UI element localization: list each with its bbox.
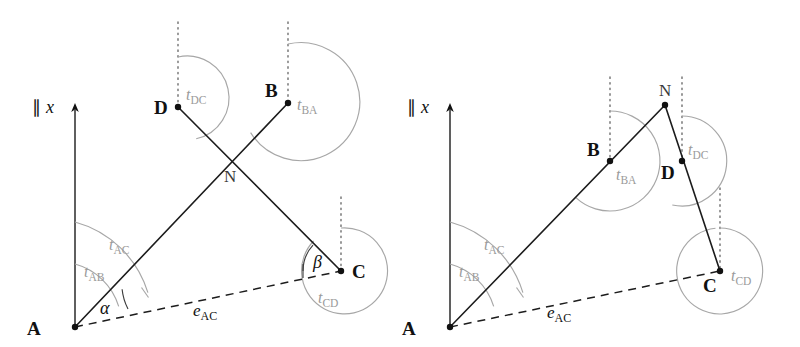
- left-panel: ∥x A B C D N tDC tBA tCD tAB tAC α β eAC: [27, 22, 388, 339]
- left-label-beta: β: [312, 252, 322, 272]
- right-point-N: [662, 102, 668, 108]
- left-label-eAC: eAC: [193, 301, 217, 323]
- left-label-tBA: tBA: [297, 96, 318, 116]
- right-label-N: N: [659, 81, 671, 100]
- left-label-tDC: tDC: [186, 86, 207, 106]
- right-arc-tBA: [576, 111, 660, 211]
- left-label-A: A: [27, 318, 41, 339]
- right-label-tAC: tAC: [484, 236, 505, 256]
- left-segment-A-B: [75, 103, 288, 327]
- right-label-B: B: [587, 139, 600, 160]
- left-label-C: C: [352, 261, 366, 282]
- left-label-tCD: tCD: [318, 289, 338, 309]
- diagram-svg: ∥x A B C D N tDC tBA tCD tAB tAC α β eAC: [0, 0, 800, 347]
- right-label-C: C: [703, 275, 717, 296]
- right-label-tAB: tAB: [459, 263, 480, 283]
- right-point-C: [717, 268, 723, 274]
- right-point-D: [679, 158, 685, 164]
- right-label-eAC: eAC: [547, 303, 571, 325]
- right-point-A: [447, 324, 453, 330]
- left-point-D: [175, 104, 181, 110]
- right-segment-A-N: [450, 105, 665, 327]
- right-label-tDC: tDC: [688, 141, 709, 161]
- left-x-axis: [71, 103, 79, 327]
- right-segment-N-C: [665, 105, 720, 271]
- right-x-axis: [446, 103, 454, 327]
- right-point-B: [607, 158, 613, 164]
- left-point-A: [72, 324, 78, 330]
- left-label-tAC: tAC: [109, 236, 130, 256]
- left-label-N: N: [224, 167, 236, 186]
- left-label-D: D: [154, 97, 168, 118]
- right-panel: ∥x A B C D N tBA tDC tCD tAB tAC eAC: [402, 77, 763, 339]
- right-label-D: D: [661, 162, 675, 183]
- left-arc-tBA: [251, 43, 360, 161]
- right-label-A: A: [402, 318, 416, 339]
- left-point-B: [285, 100, 291, 106]
- left-arc-alpha: [122, 289, 128, 309]
- right-axis-label: ∥x: [407, 97, 429, 117]
- right-label-tCD: tCD: [731, 267, 751, 287]
- left-point-C: [338, 268, 344, 274]
- left-axis-label: ∥x: [32, 97, 54, 117]
- right-arc-tAC: [450, 222, 523, 293]
- figure-container: ∥x A B C D N tDC tBA tCD tAB tAC α β eAC: [0, 0, 800, 347]
- left-label-B: B: [265, 80, 278, 101]
- left-label-alpha: α: [100, 298, 110, 318]
- right-label-tBA: tBA: [616, 166, 637, 186]
- left-arc-tAC: [75, 222, 148, 293]
- left-label-tAB: tAB: [84, 263, 105, 283]
- left-segment-D-C: [178, 107, 341, 271]
